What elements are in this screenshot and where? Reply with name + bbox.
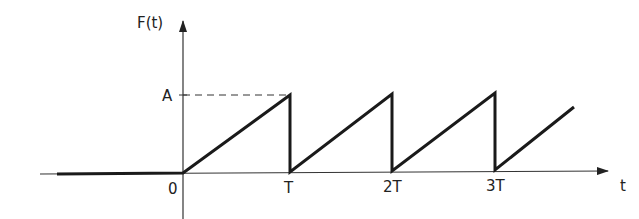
sawtooth-diagram: F(t) t A 0 T 2T 3T [0,0,639,219]
tick-label-3T: 3T [486,177,506,195]
tick-label-T: T [283,179,294,197]
tick-label-2T: 2T [383,178,403,196]
x-axis-label: t [620,177,626,195]
tick-label-0: 0 [168,180,178,198]
y-axis-label: F(t) [137,14,163,32]
amplitude-label: A [162,87,173,105]
sawtooth-curve [57,93,574,174]
